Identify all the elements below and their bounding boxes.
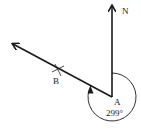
point-b-label: B xyxy=(53,76,59,86)
bearing-diagram: N B A 299° xyxy=(0,0,141,138)
point-a-label: A xyxy=(114,97,121,107)
bearing-line xyxy=(13,44,112,97)
bearing-label: 299° xyxy=(106,108,124,118)
north-label: N xyxy=(122,6,129,16)
